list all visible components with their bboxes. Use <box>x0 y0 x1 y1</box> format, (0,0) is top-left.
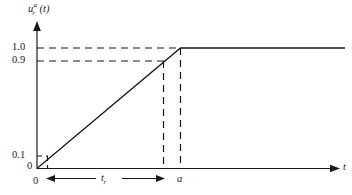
y-axis-label-argument: (t) <box>39 3 49 14</box>
y-tick-label-0: 0 <box>27 161 32 172</box>
rise-time-label-subscript: r <box>103 178 106 186</box>
y-tick-label-0-1: 0.1 <box>12 150 25 161</box>
ramp-function-figure: ura(t) 1.0 0.9 0.1 0 0 tr a t <box>0 0 352 195</box>
rise-time-label: tr <box>101 173 107 184</box>
y-tick-label-0-9: 0.9 <box>12 55 25 66</box>
y-axis-label-subscript: r <box>32 9 35 17</box>
x-axis <box>37 165 340 173</box>
ramp-curve <box>38 48 346 168</box>
y-axis-label-superscript: a <box>33 1 37 9</box>
x-axis-label: t <box>343 162 346 173</box>
y-tick-label-1-0: 1.0 <box>12 42 25 53</box>
origin-label: 0 <box>33 176 38 187</box>
plot-canvas <box>0 0 352 195</box>
y-axis <box>33 21 41 169</box>
y-axis-label: ura(t) <box>28 3 49 14</box>
delay-end-label: a <box>177 174 182 185</box>
